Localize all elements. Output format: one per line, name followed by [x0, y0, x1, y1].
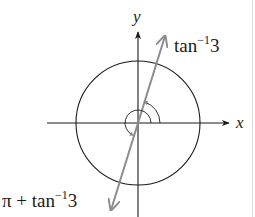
page-edge-divider: [252, 0, 253, 217]
ray-tan-inverse-3: [138, 36, 165, 123]
label-second-sup: −1: [55, 188, 68, 202]
ray-pi-plus-tan-inverse-3: [111, 123, 138, 210]
label-first-base: tan: [174, 35, 198, 56]
angle-arc-first: [145, 102, 161, 123]
x-axis-label: x: [235, 113, 244, 132]
label-second-base: tan: [32, 190, 56, 211]
label-second-prefix: π +: [2, 190, 32, 211]
y-axis-label: y: [131, 7, 141, 26]
label-second-arg: 3: [68, 190, 78, 211]
label-tan-inverse-3: tan−13: [174, 33, 220, 56]
label-first-arg: 3: [210, 35, 220, 56]
label-pi-plus-tan-inverse-3: π + tan−13: [2, 188, 77, 211]
label-first-sup: −1: [197, 33, 210, 47]
diagram-canvas: y x tan−13 π + tan−13: [0, 0, 255, 217]
